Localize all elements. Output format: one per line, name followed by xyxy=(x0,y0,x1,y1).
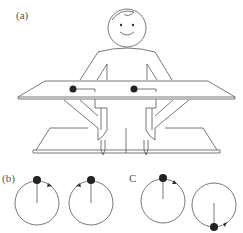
person-hair xyxy=(112,11,134,20)
lower-board xyxy=(33,128,220,153)
person-torso xyxy=(80,48,172,80)
under-table-arms xyxy=(64,99,189,155)
arrow-cw-c1 xyxy=(172,180,177,184)
arrow-c2 xyxy=(223,222,227,227)
handle-bar-right xyxy=(137,89,156,92)
dot-c1 xyxy=(159,174,167,182)
person-smile xyxy=(120,32,134,35)
person-eye-right xyxy=(132,24,134,26)
table-surface xyxy=(18,81,235,97)
person-eye-left xyxy=(120,24,122,26)
person xyxy=(80,9,172,80)
person-arm-right xyxy=(147,64,157,80)
diagram xyxy=(0,0,243,233)
handle-dot-left xyxy=(70,86,77,93)
panel-b-circles xyxy=(15,176,113,225)
person-arm-left xyxy=(97,64,107,80)
handle-dot-right xyxy=(131,86,138,93)
person-head xyxy=(108,9,146,47)
dot-c2 xyxy=(210,223,218,231)
dot-b2 xyxy=(87,176,95,184)
handle-bar-left xyxy=(76,89,95,92)
table-top xyxy=(18,81,235,99)
panel-c-circles xyxy=(141,174,236,231)
dot-b1 xyxy=(33,176,41,184)
